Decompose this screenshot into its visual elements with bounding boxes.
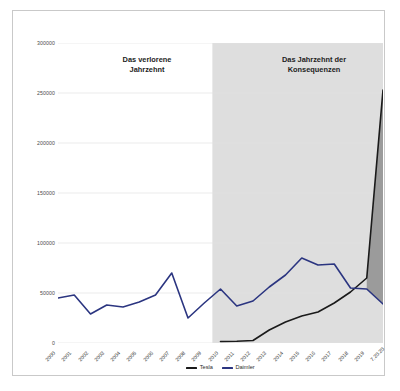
chart-page: 050000100000150000200000250000300000 200… — [0, 0, 400, 391]
x-axis: 2000200120022003200420052006200720082009… — [58, 344, 383, 376]
x-tick-label: 2017 — [320, 350, 332, 362]
annotation-lost-decade: Das verlorene Jahrzehnt — [87, 55, 207, 75]
x-tick-label: 2014 — [271, 350, 283, 362]
chart-frame: 050000100000150000200000250000300000 200… — [12, 10, 385, 376]
x-tick-label: 2010 — [206, 350, 218, 362]
y-tick-label: 100000 — [37, 240, 55, 246]
x-tick-label: 2008 — [174, 350, 186, 362]
chart-svg — [58, 43, 383, 343]
x-tick-label: 7.20.20 — [369, 346, 385, 362]
x-tick-label: 2006 — [141, 350, 153, 362]
x-tick-label: 2005 — [125, 350, 137, 362]
x-tick-label: 2009 — [190, 350, 202, 362]
x-tick-label: 2013 — [255, 350, 267, 362]
legend-item[interactable]: Tesla — [186, 365, 213, 371]
y-tick-label: 250000 — [37, 90, 55, 96]
legend-label: Daimler — [235, 365, 254, 371]
annotation-decade-of-consequences: Das Jahrzehnt der Konsequenzen — [251, 55, 377, 75]
x-tick-label: 2001 — [60, 350, 72, 362]
x-tick-label: 2019 — [353, 350, 365, 362]
y-tick-label: 0 — [52, 340, 55, 346]
x-tick-label: 2011 — [223, 350, 235, 362]
chart-legend: TeslaDaimler — [58, 365, 383, 371]
y-axis: 050000100000150000200000250000300000 — [13, 43, 55, 343]
y-tick-label: 300000 — [37, 40, 55, 46]
legend-item[interactable]: Daimler — [222, 365, 255, 371]
x-tick-label: 2000 — [44, 350, 56, 362]
x-tick-label: 2004 — [109, 350, 121, 362]
plot-area — [58, 43, 383, 343]
x-tick-label: 2016 — [304, 350, 316, 362]
x-tick-label: 2018 — [336, 350, 348, 362]
x-tick-label: 2003 — [93, 350, 105, 362]
x-tick-label: 2002 — [76, 350, 88, 362]
y-tick-label: 50000 — [40, 290, 55, 296]
legend-swatch-icon — [222, 367, 233, 369]
y-tick-label: 150000 — [37, 190, 55, 196]
y-tick-label: 200000 — [37, 140, 55, 146]
legend-label: Tesla — [200, 365, 213, 371]
x-tick-label: 2012 — [239, 350, 251, 362]
x-tick-label: 2015 — [288, 350, 300, 362]
legend-swatch-icon — [186, 367, 197, 369]
x-tick-label: 2007 — [158, 350, 170, 362]
